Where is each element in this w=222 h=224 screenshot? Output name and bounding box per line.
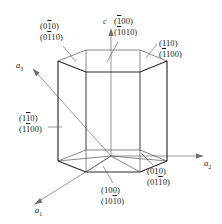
prism-back-edges xyxy=(58,50,167,172)
axis-label-a2: a2 xyxy=(204,158,211,170)
leader-top-back xyxy=(107,42,118,62)
axis-label-a1: a1 xyxy=(35,205,42,217)
prism-front-edges xyxy=(58,61,167,172)
leader-front-face xyxy=(103,166,113,183)
miller-index-upper-right: (110) xyxy=(159,38,182,49)
miller-bravais-index-front-face: (1010) xyxy=(101,196,124,207)
arrowhead-a1-icon xyxy=(34,198,42,205)
axis-a3-line xyxy=(34,70,111,156)
miller-bravais-index-upper-left: (0110) xyxy=(40,32,63,43)
leader-upper-left xyxy=(63,46,76,62)
arrowhead-c-icon xyxy=(108,28,113,36)
hexagonal-crystal-figure: a3 a2 a1 c (010) (0110) (100) (1010) (11… xyxy=(0,0,222,224)
miller-index-top-back: (100) xyxy=(114,16,137,27)
arrowhead-a2-icon xyxy=(196,153,204,158)
bottom-diagonal-left xyxy=(58,156,111,161)
axis-label-a3: a3 xyxy=(16,60,23,72)
bottom-edge-back-right xyxy=(140,150,167,161)
plane-label-left-face: (110) (1100) xyxy=(19,113,42,135)
miller-bravais-index-lower-right: (0110) xyxy=(147,177,170,188)
miller-bravais-index-top-back: (1010) xyxy=(114,27,137,38)
plane-label-upper-left-face: (010) (0110) xyxy=(40,21,63,43)
top-edge-front-left xyxy=(58,61,86,72)
bottom-edge-front-left xyxy=(58,161,86,172)
plane-label-top-back-face: (100) (1010) xyxy=(114,16,137,38)
plane-label-lower-right-face: (010) (0110) xyxy=(147,166,170,188)
top-edge-front-right xyxy=(140,61,167,72)
axis-label-c: c xyxy=(103,16,107,26)
miller-index-left-face: (110) xyxy=(19,113,42,124)
miller-bravais-index-left-face: (1100) xyxy=(19,124,42,135)
miller-index-upper-left: (010) xyxy=(40,21,63,32)
miller-bravais-index-upper-right: (1100) xyxy=(159,49,182,60)
plane-label-upper-right-face: (110) (1100) xyxy=(159,38,182,60)
plane-label-front-face: (100) (1010) xyxy=(101,185,124,207)
miller-index-lower-right: (010) xyxy=(147,166,170,177)
miller-index-front-face: (100) xyxy=(101,185,124,196)
bottom-diagonal-front xyxy=(86,156,111,172)
top-edge-back-left xyxy=(58,50,86,61)
